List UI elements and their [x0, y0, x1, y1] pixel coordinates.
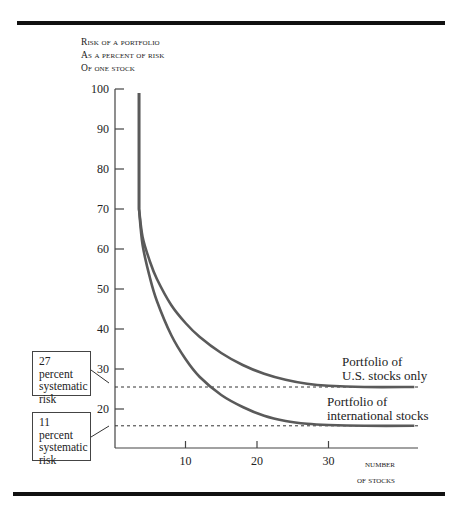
- y-tick-label: 50: [97, 282, 109, 296]
- y-tick-label: 40: [97, 322, 109, 336]
- callout-11-line-1: 11 percent: [39, 416, 84, 441]
- y-tick-label: 80: [97, 162, 109, 176]
- y-tick-label: 60: [97, 242, 109, 256]
- us-stocks-curve: [139, 93, 414, 387]
- x-tick-label: 30: [323, 454, 335, 468]
- callout-11-percent: 11 percent systematic risk: [32, 412, 91, 461]
- callout-11-line-3: risk: [39, 454, 84, 467]
- series-label-us: Portfolio of U.S. stocks only: [342, 355, 427, 383]
- series-label-us-line-2: U.S. stocks only: [342, 369, 427, 383]
- callout-27-line-3: risk: [39, 393, 84, 406]
- series-label-international: Portfolio of international stocks: [327, 395, 428, 423]
- y-tick-label: 20: [97, 402, 109, 416]
- callout-27-percent: 27 percent systematic risk: [32, 351, 91, 396]
- y-tick-label: 90: [97, 122, 109, 136]
- y-tick-label: 30: [97, 362, 109, 376]
- y-tick-label: 100: [91, 82, 109, 96]
- series-label-international-line-2: international stocks: [327, 409, 428, 423]
- callout-11-leader: [91, 426, 109, 437]
- series-label-us-line-1: Portfolio of: [342, 355, 427, 369]
- callout-11-line-2: systematic: [39, 441, 84, 454]
- x-tick-label: 20: [251, 454, 263, 468]
- callout-27-line-2: systematic: [39, 380, 84, 393]
- series-label-international-line-1: Portfolio of: [327, 395, 428, 409]
- x-tick-label: 10: [180, 454, 192, 468]
- callout-27-line-1: 27 percent: [39, 355, 84, 380]
- y-tick-label: 70: [97, 202, 109, 216]
